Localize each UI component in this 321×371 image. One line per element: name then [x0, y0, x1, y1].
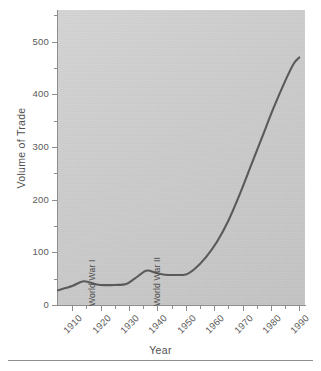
x-tick-major: [299, 306, 300, 311]
x-axis-title: Year: [0, 344, 321, 356]
x-tick-major: [271, 306, 272, 311]
annotation-world-war-ii: World War II: [153, 257, 162, 306]
y-tick-label: 400: [33, 89, 49, 99]
x-tick-major: [243, 306, 244, 311]
y-tick-label: 0: [44, 300, 49, 310]
y-tick-major: [52, 305, 57, 306]
x-tick-minor: [257, 306, 258, 309]
figure-line-chart: 0100200300400500 19101920193019401950196…: [0, 0, 321, 371]
x-tick-minor: [228, 306, 229, 309]
y-tick-label: 300: [33, 142, 49, 152]
x-tick-minor: [172, 306, 173, 309]
y-tick-major: [52, 252, 57, 253]
y-tick-minor: [54, 226, 57, 227]
y-tick-major: [52, 200, 57, 201]
y-tick-major: [52, 94, 57, 95]
y-axis-title: Volume of Trade: [15, 78, 27, 218]
y-tick-minor: [54, 68, 57, 69]
x-tick-minor: [86, 306, 87, 309]
y-tick-major: [52, 42, 57, 43]
y-tick-label: 200: [33, 195, 49, 205]
footer-divider: [8, 360, 313, 361]
y-tick-label: 500: [33, 37, 49, 47]
x-tick-minor: [115, 306, 116, 309]
x-tick-minor: [143, 306, 144, 309]
y-tick-label: 100: [33, 247, 49, 257]
y-tick-minor: [54, 173, 57, 174]
x-tick-major: [101, 306, 102, 311]
y-tick-minor: [54, 15, 57, 16]
x-tick-major: [186, 306, 187, 311]
y-tick-major: [52, 147, 57, 148]
x-tick-major: [214, 306, 215, 311]
y-tick-minor: [54, 279, 57, 280]
x-tick-major: [157, 306, 158, 311]
annotation-world-war-i: World War I: [88, 259, 97, 306]
x-tick-major: [72, 306, 73, 311]
y-tick-minor: [54, 121, 57, 122]
x-tick-minor: [200, 306, 201, 309]
x-tick-major: [129, 306, 130, 311]
x-tick-minor: [285, 306, 286, 309]
